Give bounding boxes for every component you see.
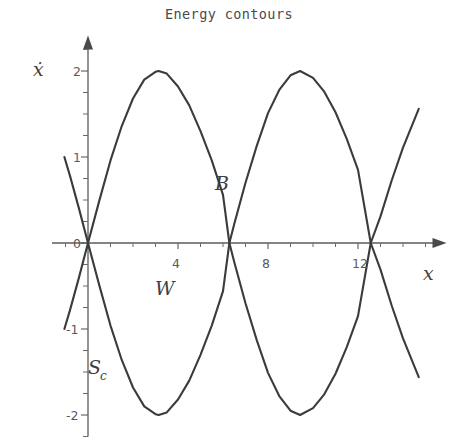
x-tick-label: 12: [352, 256, 368, 271]
energy-contours-figure: Energy contours 4812-2-1012 ẋ x B W S c: [0, 0, 458, 441]
y-axis-arrow: [83, 36, 93, 50]
y-axis-label: ẋ: [33, 58, 44, 80]
axis-layer: [52, 36, 447, 437]
figure-title: Energy contours: [0, 6, 458, 22]
y-tick-label: -1: [66, 322, 78, 337]
plot-canvas: 4812-2-1012 ẋ x B W S c: [0, 0, 458, 441]
x-axis-label: x: [423, 262, 434, 284]
y-tick-label: 2: [73, 64, 81, 79]
annotation-s-subscript: c: [100, 369, 107, 383]
annotation-sc: S c: [88, 356, 107, 383]
y-tick-label: 1: [73, 150, 81, 165]
y-tick-label: 0: [73, 236, 81, 251]
annotation-w: W: [155, 277, 176, 299]
annotation-b: B: [214, 172, 229, 194]
x-axis-arrow: [433, 238, 447, 248]
y-tick-label: -2: [66, 408, 78, 423]
x-tick-label: 8: [262, 256, 270, 271]
x-tick-label: 4: [172, 256, 180, 271]
